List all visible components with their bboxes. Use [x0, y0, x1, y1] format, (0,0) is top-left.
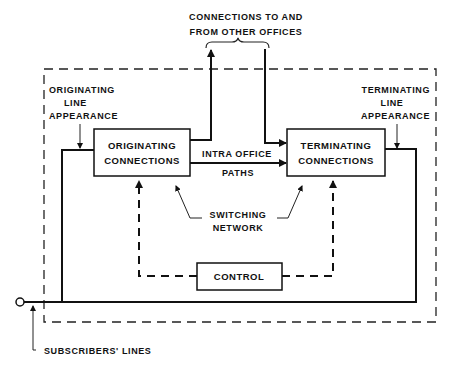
switching-office-diagram: CONNECTIONS TO AND FROM OTHER OFFICES OR… [0, 0, 453, 373]
office-boundary [43, 69, 436, 83]
originating-connections-label-1: ORIGINATING [108, 140, 176, 151]
switching-network-label-2: NETWORK [213, 223, 264, 233]
subscriber-terminal [16, 298, 24, 306]
originating-line-appearance-label-2: LINE [64, 98, 87, 108]
outgoing-trunk-line [190, 50, 211, 140]
control-path-right [282, 181, 333, 276]
originating-line-appearance-label-3: APPEARANCE [49, 111, 118, 121]
subscribers-lines-pointer [33, 306, 36, 350]
subscribers-lines-label: SUBSCRIBERS' LINES [44, 346, 151, 356]
switching-network-label-1: SWITCHING [210, 210, 267, 220]
terminating-line-appearance-label-3: APPEARANCE [361, 111, 430, 121]
control-path-left [139, 181, 197, 276]
terminating-line-appearance-label-1: TERMINATING [362, 85, 430, 95]
terminating-connections-label-2: CONNECTIONS [298, 155, 374, 166]
intraoffice-paths-label-2: PATHS [222, 168, 254, 178]
brace [206, 38, 269, 48]
terminating-connections-label-1: TERMINATING [301, 140, 372, 151]
connections-other-offices-label: CONNECTIONS TO AND [189, 12, 303, 22]
intraoffice-paths-label-1: INTRA OFFICE [202, 149, 272, 159]
terminating-line-appearance-label-2: LINE [381, 98, 404, 108]
originating-line-appearance-label-1: ORIGINATING [49, 85, 115, 95]
connections-other-offices-label-2: FROM OTHER OFFICES [190, 27, 303, 37]
switching-leader-right [277, 186, 302, 218]
originating-connections-box [94, 129, 190, 176]
switching-leader-left [176, 186, 202, 218]
terminating-connections-box [287, 129, 385, 176]
originating-connections-label-2: CONNECTIONS [104, 155, 180, 166]
control-label: CONTROL [214, 271, 264, 282]
incoming-trunk-line [265, 49, 286, 143]
